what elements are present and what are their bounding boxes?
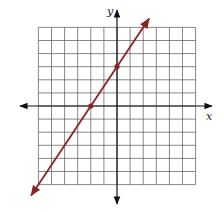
y-axis-label: y	[106, 5, 114, 18]
data-series	[31, 19, 149, 196]
x-axis-label: x	[206, 110, 213, 123]
axes: x y	[20, 5, 213, 204]
marked-point	[114, 64, 119, 69]
marked-point	[88, 103, 93, 108]
coordinate-plane: x y	[0, 0, 224, 212]
